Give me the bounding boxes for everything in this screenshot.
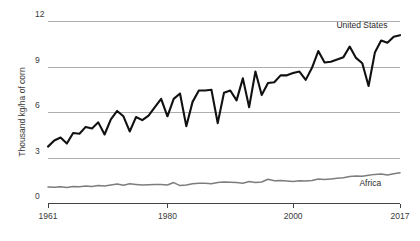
series-line-united-states xyxy=(48,35,400,146)
y-tick-label-9: 9 xyxy=(35,55,40,65)
x-tick-label-2000: 2000 xyxy=(284,211,303,221)
data-series xyxy=(48,35,400,187)
gridlines xyxy=(48,22,400,159)
series-line-africa xyxy=(48,173,400,188)
y-axis-tick-labels: 036912 xyxy=(35,9,45,201)
x-tick-label-2017: 2017 xyxy=(391,211,410,221)
y-tick-label-0: 0 xyxy=(35,191,40,201)
y-tick-label-3: 3 xyxy=(35,146,40,156)
corn-yield-line-chart: 036912 1961198020002017 United StatesAfr… xyxy=(0,0,420,241)
x-tick-label-1961: 1961 xyxy=(39,211,58,221)
y-tick-label-6: 6 xyxy=(35,100,40,110)
y-axis-title: Thousand kg/ha of corn xyxy=(17,67,27,157)
series-labels: United StatesAfrica xyxy=(336,20,387,187)
chart-container: 036912 1961198020002017 United StatesAfr… xyxy=(0,0,420,241)
series-label-united-states: United States xyxy=(336,20,387,30)
x-axis-tick-labels: 1961198020002017 xyxy=(39,211,410,221)
series-label-africa: Africa xyxy=(359,178,381,188)
x-tick-label-1980: 1980 xyxy=(158,211,177,221)
y-tick-label-12: 12 xyxy=(35,9,45,19)
x-axis xyxy=(48,204,400,209)
